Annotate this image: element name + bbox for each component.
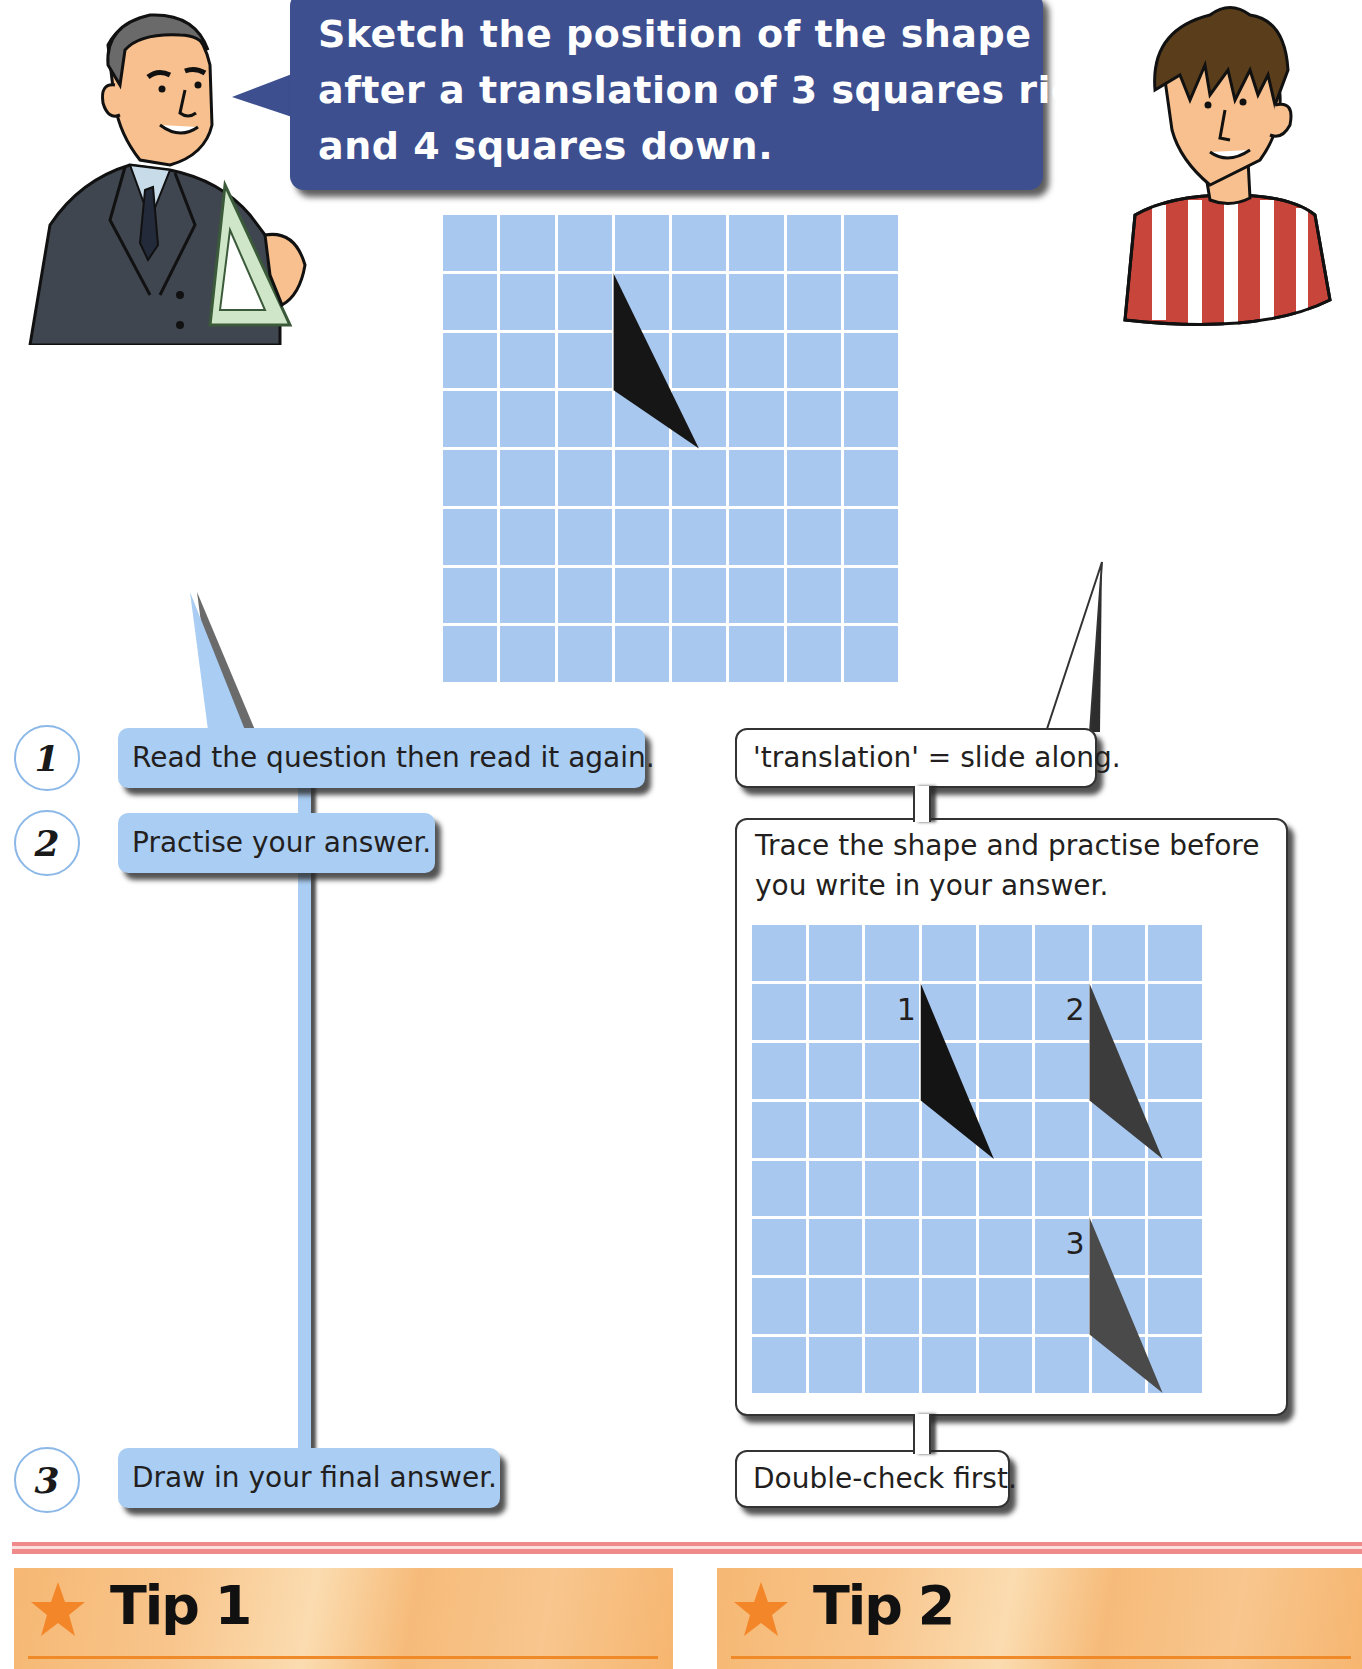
svg-text:2: 2 (1065, 992, 1084, 1027)
question-bubble: Sketch the position of the shape after a… (290, 0, 1043, 190)
svg-text:1: 1 (897, 992, 916, 1027)
double-check-text: Double-check first. (753, 1462, 1017, 1495)
tip-1-rule (28, 1656, 658, 1659)
step-pointer-icon (180, 590, 270, 735)
practice-triangles-icon: 123 (752, 925, 1202, 1393)
hint-connector-1 (913, 786, 931, 822)
student-illustration (1110, 0, 1350, 330)
question-line-2: after a translation of 3 squares right (318, 62, 1043, 118)
tip-2-title: Tip 2 (813, 1574, 953, 1637)
teacher-figure-icon (20, 5, 320, 345)
teacher-illustration (20, 5, 320, 345)
steps-connector (298, 780, 311, 1452)
translation-hint-text: 'translation' = slide along. (753, 741, 1121, 774)
tip-2-panel: Tip 2 (717, 1568, 1362, 1669)
step-3-box: Draw in your final answer. (118, 1448, 500, 1508)
hint-pointer-icon (1040, 560, 1120, 735)
question-grid (443, 215, 898, 682)
triangle-shape-icon (443, 215, 898, 682)
step-number-2: 2 (14, 810, 80, 876)
step-number-1: 1 (14, 725, 80, 791)
tip-1-title: Tip 1 (110, 1574, 250, 1637)
student-figure-icon (1110, 0, 1350, 330)
double-check-box: Double-check first. (735, 1450, 1010, 1508)
practice-grid: 123 (752, 925, 1202, 1393)
section-divider (12, 1542, 1362, 1554)
step-2-box: Practise your answer. (118, 813, 435, 873)
svg-text:3: 3 (1065, 1226, 1084, 1261)
star-icon (30, 1580, 86, 1640)
translation-hint-box: 'translation' = slide along. (735, 728, 1097, 788)
tip-2-rule (731, 1656, 1351, 1659)
star-icon (733, 1580, 789, 1640)
question-line-3: and 4 squares down. (318, 118, 1043, 174)
hint-connector-2 (913, 1414, 931, 1454)
step-1-box: Read the question then read it again. (118, 728, 645, 788)
trace-hint-text: Trace the shape and practise before you … (755, 826, 1275, 906)
question-line-1: Sketch the position of the shape (318, 6, 1043, 62)
step-number-3: 3 (14, 1447, 80, 1513)
tip-1-panel: Tip 1 (14, 1568, 673, 1669)
